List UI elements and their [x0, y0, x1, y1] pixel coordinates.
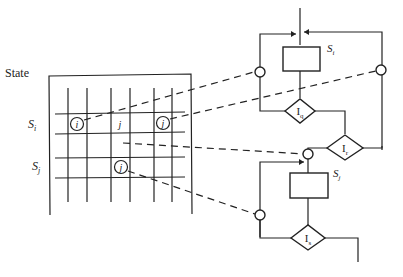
- flowchart-upper: Si Iq: [255, 8, 386, 150]
- junction-merge: [303, 149, 313, 159]
- mapping-line-j-to-loop: [170, 70, 380, 119]
- flowchart-lower: Sj Is: [255, 149, 358, 262]
- row-label-si: Si: [28, 117, 36, 133]
- cell-label-j-uncircled: j: [117, 119, 122, 130]
- block-label-sj: Sj: [333, 167, 341, 182]
- state-title: State: [5, 66, 29, 80]
- junction-left-upper: [255, 67, 265, 77]
- cell-label-j-row-i: j: [160, 118, 165, 129]
- process-block-sj: [290, 173, 328, 198]
- cell-label-j-row-j: j: [118, 162, 123, 173]
- junction-left-lower: [255, 210, 265, 220]
- process-block-si: [283, 47, 320, 71]
- row-label-sj: Sj: [32, 159, 41, 175]
- block-label-si: Si: [327, 42, 335, 57]
- junction-right-upper: [376, 65, 386, 75]
- flowchart-middle: Ir: [308, 135, 382, 160]
- state-mapping-diagram: State Si Sj i j j j Si: [0, 0, 403, 277]
- cell-label-i: i: [76, 119, 79, 130]
- mapping-line-j-to-block2: [123, 143, 305, 154]
